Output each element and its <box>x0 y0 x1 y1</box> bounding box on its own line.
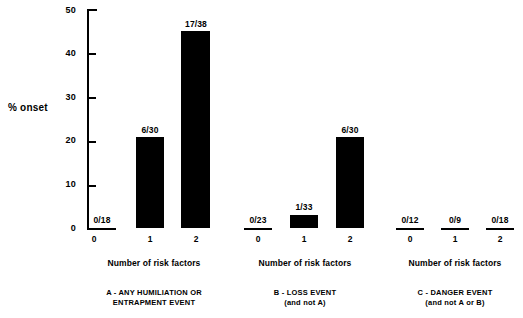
x-tick-label-group-a-cat-0: 0 <box>74 234 114 244</box>
x-tick-label-group-b-cat-2: 2 <box>330 234 370 244</box>
x-tick-label-group-a-cat-2: 2 <box>176 234 216 244</box>
y-tick-mark-10 <box>87 185 96 187</box>
bar-group-a-cat-0 <box>88 228 116 230</box>
bar-label-group-a-cat-1: 6/30 <box>128 125 172 135</box>
bar-group-b-cat-0 <box>244 228 272 230</box>
y-tick-label-50: 50 <box>52 5 76 15</box>
bar-group-b-cat-2 <box>336 137 364 228</box>
caption-group-b-line2: (and not A) <box>223 298 387 308</box>
y-tick-label-30: 30 <box>52 92 76 102</box>
y-axis-label: % onset <box>8 102 48 113</box>
bar-group-c-cat-0 <box>396 228 424 230</box>
x-tick-label-group-c-cat-0: 0 <box>390 234 430 244</box>
chart-canvas: % onset 50 40 30 20 10 0 0/18 0 6/30 1 1… <box>0 0 523 318</box>
caption-group-a-line2: ENTRAPMENT EVENT <box>72 298 236 308</box>
x-tick-label-group-b-cat-0: 0 <box>238 234 278 244</box>
y-tick-mark-50 <box>87 9 97 11</box>
bar-group-a-cat-2 <box>181 31 210 228</box>
bar-label-group-a-cat-0: 0/18 <box>80 215 124 225</box>
caption-group-c-line1: C - DANGER EVENT <box>373 288 523 298</box>
y-tick-label-0: 0 <box>52 223 76 233</box>
bar-label-group-c-cat-2: 0/18 <box>478 215 522 225</box>
y-tick-label-20: 20 <box>52 135 76 145</box>
bar-label-group-b-cat-0: 0/23 <box>236 215 280 225</box>
x-tick-label-group-c-cat-2: 2 <box>480 234 520 244</box>
bar-label-group-b-cat-1: 1/33 <box>282 202 326 212</box>
bar-group-a-cat-1 <box>136 137 164 228</box>
y-tick-label-40: 40 <box>52 48 76 58</box>
x-tick-label-group-c-cat-1: 1 <box>435 234 475 244</box>
x-axis-title-group-a: Number of risk factors <box>84 258 224 268</box>
bar-group-c-cat-1 <box>441 228 469 230</box>
y-tick-mark-30 <box>87 97 96 99</box>
bar-label-group-b-cat-2: 6/30 <box>328 125 372 135</box>
y-axis-spine <box>87 10 89 230</box>
bar-label-group-a-cat-2: 17/38 <box>173 19 219 29</box>
y-tick-mark-20 <box>87 141 96 143</box>
caption-group-b-line1: B - LOSS EVENT <box>223 288 387 298</box>
bar-group-c-cat-2 <box>486 228 514 230</box>
x-tick-label-group-b-cat-1: 1 <box>284 234 324 244</box>
bar-group-b-cat-1 <box>290 215 318 228</box>
y-tick-label-10: 10 <box>52 179 76 189</box>
x-axis-title-group-c: Number of risk factors <box>385 258 523 268</box>
x-tick-label-group-a-cat-1: 1 <box>130 234 170 244</box>
x-axis-title-group-b: Number of risk factors <box>235 258 375 268</box>
caption-group-c-line2: (and not A or B) <box>373 298 523 308</box>
y-tick-mark-40 <box>87 53 96 55</box>
bar-label-group-c-cat-1: 0/9 <box>433 215 477 225</box>
caption-group-a-line1: A - ANY HUMILIATION OR <box>72 288 236 298</box>
bar-label-group-c-cat-0: 0/12 <box>388 215 432 225</box>
